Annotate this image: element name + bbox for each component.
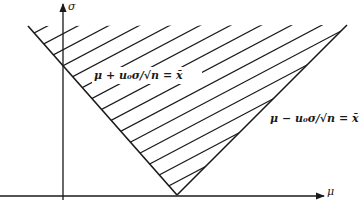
right-line-equation: μ − u₀σ/√n = x̄ bbox=[270, 113, 359, 124]
mu-axis-label: μ bbox=[327, 186, 334, 197]
left-boundary-line bbox=[28, 26, 177, 195]
left-line-equation: μ + u₀σ/√n = x̄ bbox=[94, 70, 183, 81]
right-boundary-line bbox=[177, 25, 347, 195]
sigma-axis-label: σ bbox=[68, 1, 76, 12]
